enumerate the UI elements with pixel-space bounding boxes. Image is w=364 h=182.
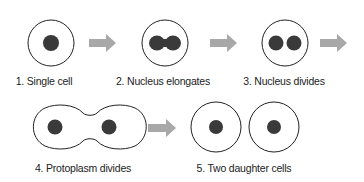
nucleus	[209, 120, 223, 134]
step-4-protoplasm-divides	[33, 105, 146, 149]
step-3-label: 3. Nucleus divides	[243, 75, 325, 87]
step-1-label: 1. Single cell	[16, 75, 73, 87]
nucleus-right	[102, 120, 117, 135]
step-3-nucleus-divides	[262, 20, 308, 66]
arrow-4-icon	[148, 119, 176, 137]
arrow-3-icon	[320, 34, 347, 52]
arrow-1-icon	[89, 34, 116, 52]
step-2-nucleus-elongates	[142, 20, 188, 66]
nucleus	[267, 120, 281, 134]
nucleus-right	[287, 36, 302, 51]
cell-division-diagram	[0, 0, 364, 182]
nucleus-left	[269, 36, 284, 51]
step-4-label: 4. Protoplasm divides	[35, 162, 131, 174]
step-5-two-daughter-cells	[191, 102, 299, 152]
nucleus	[43, 35, 59, 51]
step-1-single-cell	[28, 20, 74, 66]
arrow-2-icon	[210, 34, 237, 52]
nucleus-left	[48, 120, 63, 135]
step-2-label: 2. Nucleus elongates	[116, 75, 210, 87]
step-5-label: 5. Two daughter cells	[197, 162, 292, 174]
